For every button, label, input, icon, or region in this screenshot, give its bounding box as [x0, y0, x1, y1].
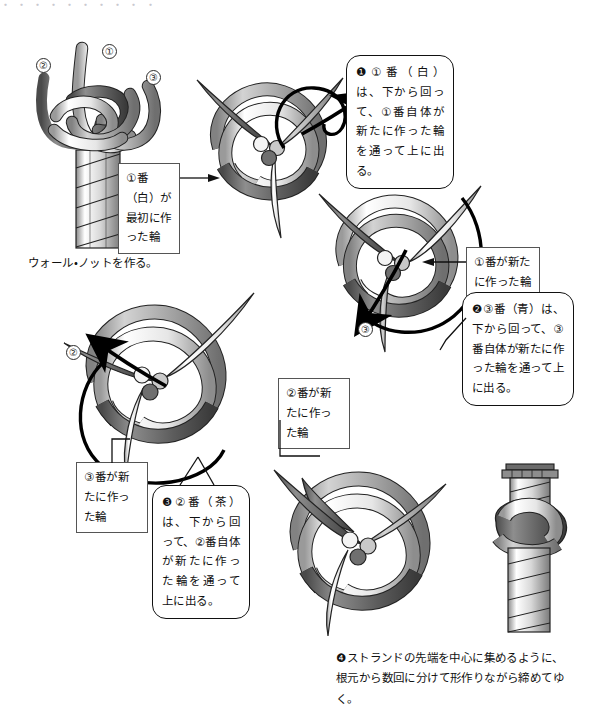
leader-new-loop-one: [418, 253, 470, 273]
callout-step-3: ❸②番（茶）は、下から回って、②番自体が新たに作った輪を通って上に出る。: [152, 485, 250, 619]
labelbox-new-loop-one: ①番が新たに作った輪: [466, 247, 540, 299]
labelbox-new-loop-one-text: ①番が新たに作った輪: [474, 253, 532, 293]
labelbox-first-loop-white-text: ①番（白）が最初に作った輪: [126, 169, 172, 248]
diagram-canvas: ・ ・ ・ ・ ・ ・ ・ ・ ・ ・: [0, 0, 612, 723]
callout-step-1-text: ❶①番（白）は、下から回って、①番自体が新たに作った輪を通って上に出る。: [356, 63, 444, 182]
cropped-header-text: ・ ・ ・ ・ ・ ・ ・ ・ ・ ・: [0, 0, 612, 14]
leader-new-loop-two: [276, 420, 336, 480]
caption-step-4-text: ❹ストランドの先端を中心に集めるように、根元から数回に分けて形作りながら締めてゆ…: [336, 648, 566, 709]
callout-step-2-tail: [432, 310, 472, 356]
callout-step-1: ❶①番（白）は、下から回って、①番自体が新たに作った輪を通って上に出る。: [346, 55, 454, 189]
callout-step-3-text: ❸②番（茶）は、下から回って、②番自体が新たに作った輪を通って上に出る。: [162, 493, 240, 612]
figure-finished: [478, 462, 588, 637]
labelbox-first-loop-white: ①番（白）が最初に作った輪: [118, 163, 180, 254]
callout-step-3-tail: [170, 455, 220, 491]
strand-marker-two-step3: ②: [66, 345, 81, 360]
callout-step-2-text: ❷③番（青）は、下から回って、③番自体が新たに作った輪を通って上に出る。: [472, 300, 564, 399]
strand-marker-three-step2: ③: [358, 322, 373, 337]
strand-marker-one: ①: [102, 44, 117, 59]
strand-marker-two: ②: [36, 58, 51, 73]
leader-new-loop-three: [110, 425, 140, 465]
strand-marker-three: ③: [146, 70, 161, 85]
callout-step-2: ❷③番（青）は、下から回って、③番自体が新たに作った輪を通って上に出る。: [462, 292, 574, 406]
leader-first-loop-white: [180, 170, 222, 190]
labelbox-new-loop-three: ③番が新たに作った輪: [76, 462, 148, 533]
rope-body: [76, 150, 120, 248]
caption-wall-knot-text: ウォール・ノットを作る。: [28, 253, 218, 273]
labelbox-new-loop-three-text: ③番が新たに作った輪: [84, 468, 140, 527]
caption-step-4: ❹ストランドの先端を中心に集めるように、根元から数回に分けて形作りながら締めてゆ…: [336, 648, 566, 709]
rope-whipping: [502, 464, 558, 478]
knot-bundle-4: [274, 470, 446, 636]
caption-wall-knot: ウォール・ノットを作る。: [28, 253, 218, 273]
